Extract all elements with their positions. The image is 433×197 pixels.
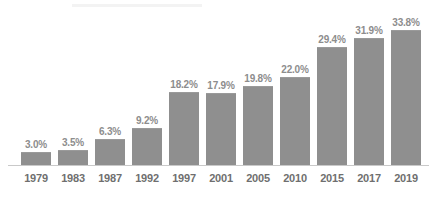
bar[interactable]: [21, 152, 51, 165]
bar-value-label: 3.0%: [25, 139, 47, 150]
bar-value-label: 18.2%: [170, 79, 197, 90]
x-axis-tick-label: 2019: [391, 172, 421, 184]
bar-value-label: 22.0%: [281, 64, 308, 75]
bar[interactable]: [132, 128, 162, 165]
bar-slot: 29.4%: [317, 0, 347, 165]
bar-slot: 3.5%: [58, 0, 88, 165]
bar-slot: 31.9%: [354, 0, 384, 165]
bar-value-label: 29.4%: [318, 34, 345, 45]
bar[interactable]: [391, 30, 421, 165]
bar-slot: 9.2%: [132, 0, 162, 165]
x-axis-tick-label: 2005: [243, 172, 273, 184]
bar[interactable]: [243, 86, 273, 165]
bar-value-label: 17.9%: [207, 80, 234, 91]
x-axis-tick-label: 2001: [206, 172, 236, 184]
bar-value-label: 31.9%: [355, 25, 382, 36]
bar-slot: 3.0%: [21, 0, 51, 165]
bar-slot: 19.8%: [243, 0, 273, 165]
bar-slot: 6.3%: [95, 0, 125, 165]
bar-slot: 18.2%: [169, 0, 199, 165]
bar[interactable]: [169, 92, 199, 165]
x-axis-tick-label: 1979: [21, 172, 51, 184]
bar-value-label: 3.5%: [62, 137, 84, 148]
bars-container: 3.0%3.5%6.3%9.2%18.2%17.9%19.8%22.0%29.4…: [21, 0, 421, 165]
bar-slot: 22.0%: [280, 0, 310, 165]
x-axis-line: [8, 165, 429, 166]
bar-value-label: 19.8%: [244, 73, 271, 84]
bar[interactable]: [354, 38, 384, 165]
plot-area: 3.0%3.5%6.3%9.2%18.2%17.9%19.8%22.0%29.4…: [0, 0, 433, 197]
bar-slot: 17.9%: [206, 0, 236, 165]
x-axis-tick-label: 2015: [317, 172, 347, 184]
bar[interactable]: [58, 150, 88, 165]
x-axis-labels: 1979198319871992199720012005201020152017…: [21, 172, 421, 192]
bar-slot: 33.8%: [391, 0, 421, 165]
bar[interactable]: [317, 47, 347, 165]
bar[interactable]: [206, 93, 236, 165]
bar-value-label: 6.3%: [99, 126, 121, 137]
bar-chart: 3.0%3.5%6.3%9.2%18.2%17.9%19.8%22.0%29.4…: [0, 0, 433, 197]
x-axis-tick-label: 1992: [132, 172, 162, 184]
x-axis-tick-label: 1987: [95, 172, 125, 184]
bar[interactable]: [280, 77, 310, 165]
x-axis-tick-label: 1997: [169, 172, 199, 184]
x-axis-tick-label: 1983: [58, 172, 88, 184]
bar[interactable]: [95, 139, 125, 165]
x-axis-tick-label: 2010: [280, 172, 310, 184]
bar-value-label: 9.2%: [136, 115, 158, 126]
bar-value-label: 33.8%: [392, 17, 419, 28]
x-axis-tick-label: 2017: [354, 172, 384, 184]
